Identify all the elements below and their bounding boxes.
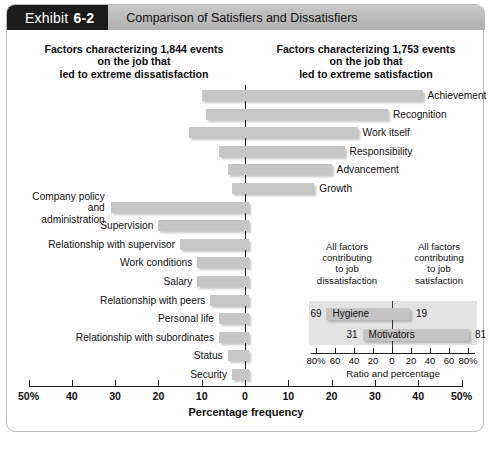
inset-caption-line: contributing [305,252,389,263]
chart-bar [189,127,358,138]
inset-panel: All factorscontributingto jobdissatisfac… [303,241,483,381]
inset-x-axis-tick-label: 20 [368,355,379,366]
x-axis-tick [72,380,73,386]
chart-bar [210,295,249,306]
chart-bar [232,183,314,194]
inset-caption-line: to job [397,263,481,274]
chart-bar-label: Security [190,369,227,380]
chart-bar-label: Advancement [337,164,399,175]
inset-x-axis-tick-label: 80% [306,355,325,366]
chart-bar [202,90,423,101]
chart-bar [197,276,249,287]
chart-bar [219,313,249,324]
chart-bar-label: Work itself [363,127,410,138]
x-axis-tick-label: 0 [242,390,248,402]
inset-caption-line: to job [305,263,389,274]
chart-bar-label: Status [194,350,223,361]
chart-row: Advancement [7,163,485,178]
inset-axis-caption: Ratio and percentage [303,368,483,379]
x-axis-tick-label: 30 [109,390,121,402]
chart-bar [228,350,250,361]
chart-row: Recognition [7,108,485,123]
chart-row: Supervision [7,219,485,234]
x-axis-tick-label: 40 [66,390,78,402]
chart-bar [232,369,249,380]
inset-x-axis-tick-label: 40 [425,355,436,366]
x-axis-tick [158,380,159,386]
inset-bar-name: Motivators [369,329,415,341]
x-axis-tick [245,380,246,386]
inset-caption-left: All factorscontributingto jobdissatisfac… [305,241,389,286]
inset-row: Hygiene6919 [303,305,483,323]
chart-bar-label: Supervision [100,220,153,231]
inset-x-axis-tick [316,348,317,353]
inset-x-axis-tick [335,348,336,353]
inset-caption-line: dissatisfaction [305,275,389,286]
inset-value-right: 81 [475,329,486,341]
x-axis-tick [29,380,30,386]
x-axis-line [29,386,463,387]
x-axis-tick-label: 50% [18,390,39,402]
chart-bar-label: Relationship with subordinates [76,332,214,343]
chart-bar [111,202,250,213]
inset-bar-name: Hygiene [332,308,369,320]
chart-bar [197,257,249,268]
inset-caption-line: contributing [397,252,481,263]
inset-x-axis-tick-label: 80% [458,355,477,366]
chart-bar-label: Recognition [393,109,447,120]
chart-row: Achievement [7,89,485,104]
x-axis-tick [288,380,289,386]
x-axis-tick [115,380,116,386]
chart-bar [228,164,332,175]
inset-x-axis-tick [392,348,393,353]
inset-x-axis-tick [354,348,355,353]
exhibit-frame: Exhibit 6-2 Comparison of Satisfiers and… [6,4,484,432]
x-axis-tick-label: 40 [412,390,424,402]
chart-bar [219,146,345,157]
inset-caption-right: All factorscontributingto jobsatisfactio… [397,241,481,286]
x-axis-tick-label: 50% [451,390,472,402]
chart-row: Work itself [7,126,485,141]
inset-caption-line: All factors [305,241,389,252]
chart-bar [206,109,388,120]
chart-row: Responsibility [7,145,485,160]
inset-value-left: 31 [347,329,358,341]
chart-bar [158,220,249,231]
inset-value-right: 19 [416,308,427,320]
x-axis-tick-label: 30 [369,390,381,402]
x-axis-caption: Percentage frequency [7,406,485,418]
chart-bar-label: Relationship with supervisor [48,239,175,250]
chart-bar-label: Work conditions [120,257,192,268]
chart-bar-label: Salary [163,276,192,287]
inset-value-left: 69 [310,308,321,320]
x-axis-tick-label: 10 [282,390,294,402]
inset-x-axis-tick [373,348,374,353]
inset-x-axis-tick-label: 0 [389,355,394,366]
inset-x-axis-tick-label: 40 [349,355,360,366]
inset-caption-line: satisfaction [397,275,481,286]
inset-x-axis-tick [449,348,450,353]
chart-bar [219,332,249,343]
inset-x-axis-tick-label: 60 [330,355,341,366]
x-axis-tick-label: 20 [152,390,164,402]
chart-bar-label: Achievement [428,90,487,101]
chart-bar-label: Growth [319,183,352,194]
chart-row: Company policy and administration [7,201,485,216]
inset-x-axis-tick-label: 60 [444,355,455,366]
chart-bar [180,239,249,250]
x-axis-tick-label: 20 [326,390,338,402]
inset-x-axis-tick [411,348,412,353]
inset-x-axis-line [311,353,475,354]
x-axis-tick-label: 10 [196,390,208,402]
x-axis-tick [202,380,203,386]
inset-x-axis-tick-label: 20 [406,355,417,366]
inset-x-axis-tick [468,348,469,353]
chart-bar-label: Personal life [158,313,214,324]
inset-x-axis-tick [430,348,431,353]
inset-row: Motivators3181 [303,326,483,344]
chart-bar-label: Relationship with peers [100,295,205,306]
inset-caption-line: All factors [397,241,481,252]
chart-bar-label: Responsibility [350,146,413,157]
